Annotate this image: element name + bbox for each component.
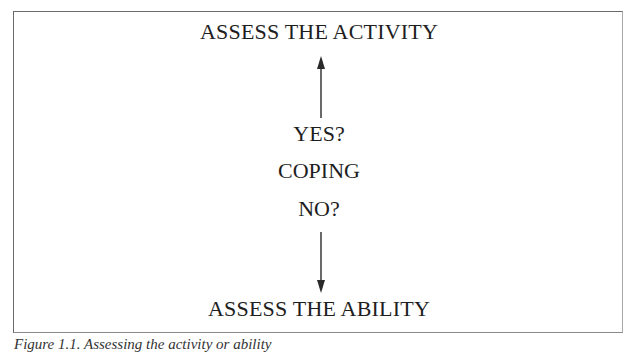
- arrow-down-icon: [317, 232, 325, 293]
- yes-label: YES?: [0, 121, 638, 147]
- arrow-up-icon: [317, 56, 325, 118]
- no-label: NO?: [0, 196, 638, 222]
- coping-label: COPING: [0, 158, 638, 184]
- assess-ability-label: ASSESS THE ABILITY: [0, 296, 638, 322]
- figure-caption: Figure 1.1. Assessing the activity or ab…: [14, 336, 271, 353]
